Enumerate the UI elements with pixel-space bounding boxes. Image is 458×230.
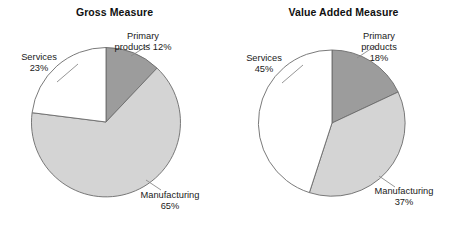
pie-label-primary-products-line3: 18% — [343, 53, 415, 64]
pie-label-primary-products-line2: products — [343, 42, 415, 53]
pie-chart-figure: Gross Measure Primary products 12% Servi… — [0, 0, 458, 230]
chart-panel-value-added-measure: Value Added Measure Primary products 18%… — [229, 0, 458, 230]
leader-line-manufacturing — [146, 180, 161, 190]
pie-label-services-line2: 23% — [10, 63, 68, 74]
pie-label-services-line2: 45% — [235, 64, 293, 75]
chart-panel-gross-measure: Gross Measure Primary products 12% Servi… — [0, 0, 229, 230]
pie-label-manufacturing: Manufacturing 65% — [131, 190, 209, 212]
pie-label-manufacturing-line1: Manufacturing — [131, 190, 209, 201]
pie-label-primary-products: Primary products 18% — [343, 31, 415, 65]
pie-label-manufacturing-line2: 65% — [131, 201, 209, 212]
pie-label-services: Services 23% — [10, 52, 68, 74]
pie-label-manufacturing: Manufacturing 37% — [365, 186, 443, 208]
pie-label-primary-products-line1: Primary — [343, 31, 415, 42]
pie-label-primary-products-line2: products 12% — [101, 42, 185, 53]
pie-label-services: Services 45% — [235, 53, 293, 75]
pie-label-services-line1: Services — [235, 53, 293, 64]
pie-label-primary-products-line1: Primary — [101, 31, 185, 42]
pie-label-manufacturing-line2: 37% — [365, 197, 443, 208]
pie-label-primary-products: Primary products 12% — [101, 31, 185, 53]
pie-label-services-line1: Services — [10, 52, 68, 63]
pie-label-manufacturing-line1: Manufacturing — [365, 186, 443, 197]
